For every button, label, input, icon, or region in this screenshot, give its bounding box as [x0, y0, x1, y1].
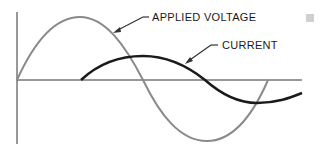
current-label: CURRENT — [222, 39, 278, 51]
voltage-label: APPLIED VOLTAGE — [152, 11, 256, 23]
voltage-arrowhead-icon — [113, 27, 121, 33]
waveform-svg: APPLIED VOLTAGE CURRENT — [0, 0, 323, 153]
voltage-wave — [17, 17, 268, 141]
ac-phase-diagram: APPLIED VOLTAGE CURRENT — [0, 0, 323, 153]
corner-mark-icon — [307, 14, 313, 22]
